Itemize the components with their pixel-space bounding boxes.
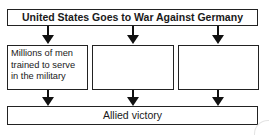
effect-box-1: Millions of men trained to serve in the … — [7, 45, 88, 90]
arrow-down-icon — [127, 26, 139, 45]
arrow-down-icon — [212, 26, 224, 45]
result-box: Allied victory — [7, 106, 258, 125]
effect-text-1: Millions of men trained to serve in the … — [11, 48, 75, 81]
result-text: Allied victory — [103, 109, 162, 121]
arrow-down-icon — [42, 26, 54, 45]
arrow-down-icon — [212, 90, 224, 106]
title-box: United States Goes to War Against German… — [7, 9, 258, 26]
arrow-down-icon — [127, 90, 139, 106]
effect-box-2-blank[interactable] — [92, 45, 174, 90]
arrow-down-icon — [42, 90, 54, 106]
effect-box-3-blank[interactable] — [178, 45, 259, 90]
title-text: United States Goes to War Against German… — [22, 11, 243, 23]
